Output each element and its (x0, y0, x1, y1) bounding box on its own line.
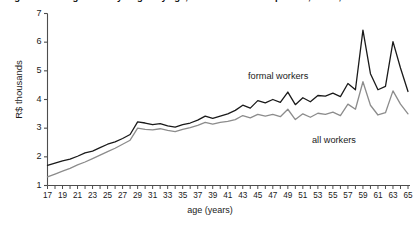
axis-lines (48, 14, 411, 186)
axis-ticks (44, 14, 408, 190)
plot-area (0, 0, 420, 225)
figure-container: Figure 4. Average monthly wages by age, … (0, 0, 420, 225)
series-line-formal-workers (48, 30, 409, 165)
series-line-all-workers (48, 82, 409, 177)
